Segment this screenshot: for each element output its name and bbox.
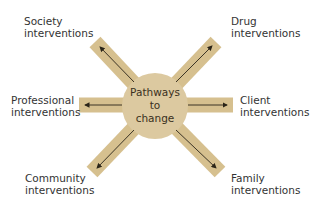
node-drug: Drug interventions (231, 15, 300, 39)
arrow-family (176, 130, 216, 168)
node-society-line1: Society (24, 15, 93, 27)
node-community-line2: interventions (25, 184, 94, 196)
center-label: Pathways to change (120, 86, 190, 125)
center-line-3: change (120, 112, 190, 125)
arrow-drug (176, 46, 212, 82)
center-line-2: to (120, 99, 190, 112)
arrow-society (100, 47, 134, 82)
node-society-line2: interventions (24, 27, 93, 39)
node-community: Community interventions (25, 172, 94, 196)
node-society: Society interventions (24, 15, 93, 39)
node-community-line1: Community (25, 172, 94, 184)
node-drug-line1: Drug (231, 15, 300, 27)
center-line-1: Pathways (120, 86, 190, 99)
node-client: Client interventions (240, 94, 309, 118)
arrow-community (97, 130, 134, 168)
node-professional: Professional interventions (11, 94, 80, 118)
node-family-line1: Family (231, 172, 300, 184)
node-client-line1: Client (240, 94, 309, 106)
node-family-line2: interventions (231, 184, 300, 196)
node-family: Family interventions (231, 172, 300, 196)
node-drug-line2: interventions (231, 27, 300, 39)
node-professional-line2: interventions (11, 106, 80, 118)
node-professional-line1: Professional (11, 94, 80, 106)
node-client-line2: interventions (240, 106, 309, 118)
